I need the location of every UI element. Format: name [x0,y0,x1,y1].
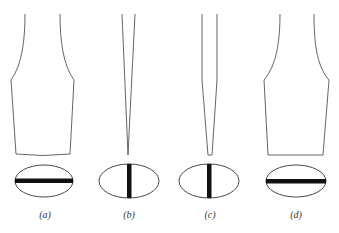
panel-c-tip-profile [202,14,217,155]
panel-b-cross-section [99,164,159,198]
panel-d-label: (d) [276,209,316,220]
panel-b-tip-profile [122,14,135,155]
panel-d-cross-section [266,165,326,197]
panel-a-label: (a) [25,209,65,220]
panel-b-label: (b) [109,209,149,220]
panel-c-label: (c) [190,209,230,220]
panel-a-cross-section [15,165,73,197]
panel-d-tip-profile [264,14,329,155]
panel-c-cross-section [179,164,239,198]
diagram-canvas [0,0,339,233]
panel-a-tip-profile [11,14,74,156]
